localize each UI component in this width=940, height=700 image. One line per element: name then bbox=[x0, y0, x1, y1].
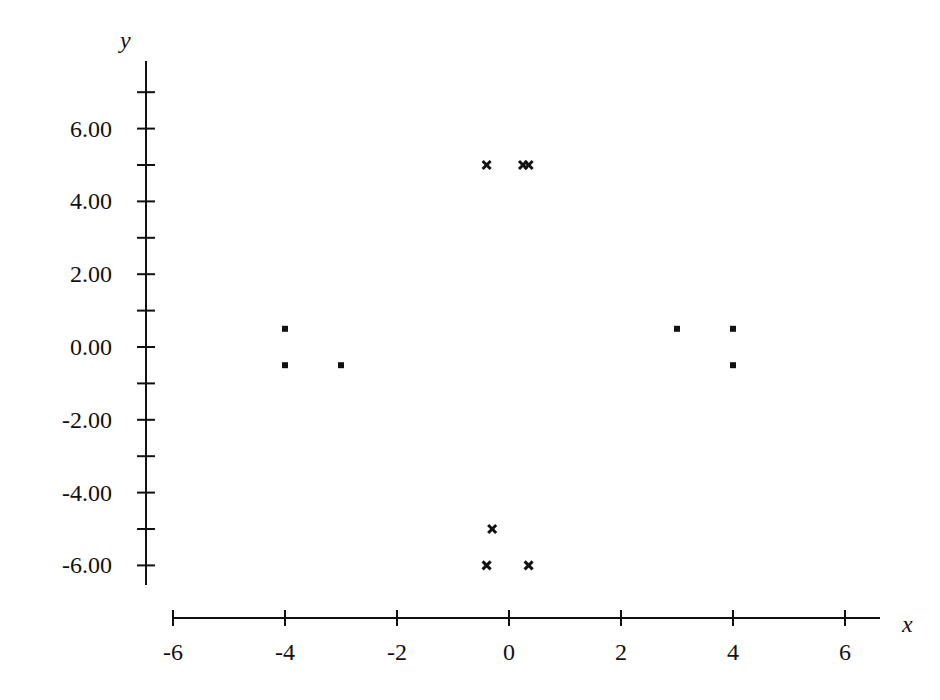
y-tick-label: -2.00 bbox=[62, 407, 112, 433]
cross-marker bbox=[525, 561, 533, 569]
square-marker bbox=[282, 362, 288, 368]
cross-marker bbox=[483, 161, 491, 169]
square-marker bbox=[730, 326, 736, 332]
y-tick-label: 4.00 bbox=[70, 188, 112, 214]
x-axis-label: x bbox=[901, 611, 913, 637]
x-tick-label: 2 bbox=[615, 639, 627, 665]
x-axis: -6-4-20246 bbox=[163, 610, 880, 665]
y-tick-label: -4.00 bbox=[62, 480, 112, 506]
y-axis-label: y bbox=[118, 27, 131, 53]
square-marker bbox=[730, 362, 736, 368]
cross-marker bbox=[488, 525, 496, 533]
data-points bbox=[282, 161, 736, 569]
x-tick-label: -6 bbox=[163, 639, 183, 665]
y-tick-label: 6.00 bbox=[70, 116, 112, 142]
x-tick-label: -4 bbox=[275, 639, 295, 665]
y-tick-label: 0.00 bbox=[70, 334, 112, 360]
x-tick-label: 6 bbox=[839, 639, 851, 665]
square-marker bbox=[338, 362, 344, 368]
square-marker bbox=[282, 326, 288, 332]
square-marker bbox=[674, 326, 680, 332]
cross-marker bbox=[483, 561, 491, 569]
x-tick-label: 4 bbox=[727, 639, 739, 665]
x-tick-label: 0 bbox=[503, 639, 515, 665]
cross-marker bbox=[525, 161, 533, 169]
y-axis: 6.004.002.000.00-2.00-4.00-6.00 bbox=[62, 61, 155, 585]
x-tick-label: -2 bbox=[387, 639, 407, 665]
y-tick-label: -6.00 bbox=[62, 552, 112, 578]
scatter-chart: 6.004.002.000.00-2.00-4.00-6.00 -6-4-202… bbox=[0, 0, 940, 700]
y-tick-label: 2.00 bbox=[70, 261, 112, 287]
